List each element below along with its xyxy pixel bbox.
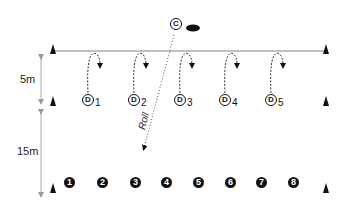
player-2: 2: [97, 177, 108, 188]
drill-diagram: 5m 15m C Roll D1 D2 D3 D4 D5 1 2 3 4 5 6…: [0, 0, 345, 205]
cones: [50, 44, 329, 193]
player-8: 8: [288, 177, 299, 188]
player-1: 1: [64, 177, 75, 188]
player-7: 7: [256, 177, 267, 188]
coach-marker: C: [170, 18, 182, 30]
defender-2: D2: [128, 94, 147, 108]
player-5: 5: [193, 177, 204, 188]
defender-4: D4: [219, 94, 238, 108]
distance-label-15m: 15m: [17, 146, 38, 157]
distance-label-5m: 5m: [20, 74, 35, 85]
player-4: 4: [161, 177, 172, 188]
defender-paths: [88, 53, 283, 93]
defender-3: D3: [174, 94, 193, 108]
roll-path: [144, 35, 174, 148]
defender-5: D5: [265, 94, 284, 108]
diagram-graphics: [0, 0, 345, 205]
defender-1: D1: [82, 94, 101, 108]
player-6: 6: [225, 177, 236, 188]
player-3: 3: [130, 177, 141, 188]
ball-icon: [186, 25, 200, 32]
